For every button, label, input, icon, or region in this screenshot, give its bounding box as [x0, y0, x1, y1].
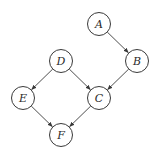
edges [31, 32, 129, 127]
edge-a-to-b [107, 32, 128, 53]
node-label: B [132, 55, 141, 68]
node-a: A [88, 13, 111, 36]
edge-d-to-c [69, 69, 90, 90]
node-label: E [18, 92, 27, 105]
node-label: C [95, 92, 104, 105]
node-f: F [50, 124, 73, 147]
edge-d-to-e [32, 69, 53, 90]
node-label: A [94, 18, 103, 31]
node-c: C [88, 87, 111, 110]
edge-b-to-c [108, 69, 129, 90]
node-e: E [12, 87, 35, 110]
node-label: F [56, 129, 65, 142]
edge-c-to-f [70, 106, 91, 127]
node-b: B [126, 50, 149, 73]
edge-e-to-f [31, 106, 52, 127]
directed-graph: ABDECF [0, 0, 159, 154]
node-label: D [56, 55, 66, 68]
node-d: D [50, 50, 73, 73]
